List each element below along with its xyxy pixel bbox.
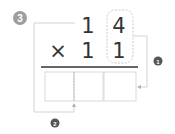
top-tens-digit: 1 (81, 14, 94, 38)
answer-box-hundreds[interactable] (45, 72, 74, 101)
answer-box-tens[interactable] (74, 72, 103, 101)
callout-badge-1: 1 (154, 57, 163, 66)
bottom-tens-digit: 1 (81, 39, 94, 63)
answer-box-ones[interactable] (104, 72, 136, 101)
top-ones-digit: 4 (112, 14, 125, 38)
guide-line-1 (133, 36, 147, 87)
step-badge: 3 (13, 11, 27, 25)
multiply-sign: × (49, 39, 67, 63)
callout-badge-2: 2 (51, 119, 60, 128)
bottom-ones-digit: 1 (112, 39, 125, 63)
multiplication-diagram: 3 1 4 × 1 1 1 2 (0, 0, 175, 134)
guide-arrow-1-icon (137, 85, 141, 89)
guide-arrow-2-icon (72, 103, 76, 107)
step-badge-label: 3 (17, 13, 23, 24)
